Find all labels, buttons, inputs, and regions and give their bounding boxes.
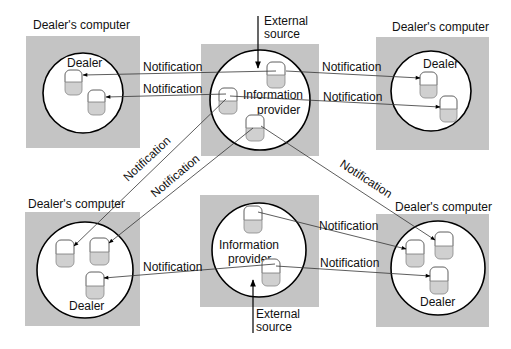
database-icon — [430, 267, 448, 294]
notification-label: Notification — [320, 256, 379, 270]
database-icon — [406, 240, 424, 267]
provider-label-1: Information — [243, 88, 303, 102]
notification-label: Notification — [143, 260, 202, 274]
dealer-label: Dealer — [423, 57, 458, 71]
notification-label: Notification — [143, 60, 202, 74]
notification-label: Notification — [319, 219, 378, 233]
notification-label: Notification — [322, 60, 381, 74]
database-icon — [88, 90, 105, 115]
dealer-computer-bottom-left: Dealer's computer Dealer — [25, 197, 140, 326]
notification-diagram: Dealer's computer Dealer Information pro… — [0, 0, 511, 349]
dealer-computer-top-right: Dealer's computer Dealer — [376, 20, 489, 150]
notification-label: Notification — [323, 90, 382, 104]
database-icon — [262, 259, 280, 286]
dealer-label: Dealer — [420, 295, 455, 309]
database-icon — [435, 232, 453, 259]
database-icon — [65, 70, 82, 95]
dealer-computer-top-left: Dealer's computer Dealer — [26, 18, 140, 148]
box-label: Dealer's computer — [392, 20, 489, 34]
provider-label-1: Information — [219, 238, 279, 252]
dealer-computer-bottom-right: Dealer's computer Dealer — [376, 200, 492, 327]
database-icon — [90, 238, 109, 265]
dealer-label: Dealer — [67, 56, 102, 70]
database-icon — [86, 272, 104, 299]
box-label: Dealer's computer — [395, 200, 492, 214]
database-icon — [420, 72, 437, 98]
database-icon — [244, 206, 262, 233]
box-label: Dealer's computer — [28, 197, 125, 211]
database-icon — [219, 88, 237, 114]
dealer-label: Dealer — [69, 299, 104, 313]
notification-label: Notification — [143, 82, 202, 96]
information-provider-top: Information provider External source — [201, 14, 319, 156]
database-icon — [246, 115, 264, 141]
external-source-label-2: source — [264, 27, 300, 41]
external-source-label: External — [256, 307, 300, 321]
database-icon — [267, 62, 285, 88]
box-label: Dealer's computer — [33, 18, 130, 32]
external-source-label-2: source — [256, 320, 292, 334]
provider-label-2: provider — [257, 103, 300, 117]
information-provider-bottom: Information provider External source — [200, 195, 319, 334]
external-source-label: External — [264, 14, 308, 28]
database-icon — [56, 240, 74, 267]
notification-label: Notification — [337, 157, 394, 201]
database-icon — [440, 96, 457, 122]
